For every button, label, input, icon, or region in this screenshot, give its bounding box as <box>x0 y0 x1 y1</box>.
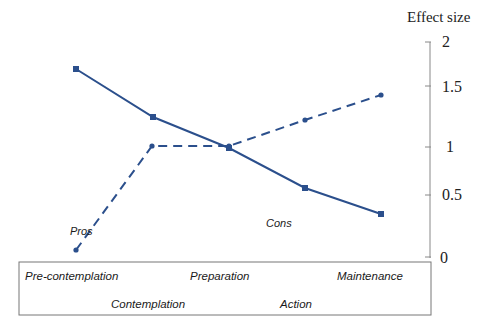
stage-pre-contemplation: Pre-contemplation <box>25 270 118 282</box>
pros-line <box>76 95 381 250</box>
cons-line <box>76 69 381 214</box>
y-axis-title: Effect size <box>407 9 471 25</box>
cons-markers <box>73 66 384 217</box>
effect-size-chart: Effect size 2 1.5 1 0.5 0 Pros Cons Pre-… <box>0 0 483 331</box>
cons-label: Cons <box>266 217 292 229</box>
y-tick-label-1: 1 <box>446 138 454 155</box>
stage-action: Action <box>279 298 312 310</box>
y-tick-label-1-5: 1.5 <box>442 78 462 95</box>
y-tick-label-0: 0 <box>440 249 448 266</box>
pros-label: Pros <box>70 225 93 237</box>
pros-markers <box>73 92 383 252</box>
stage-contemplation: Contemplation <box>111 298 185 310</box>
y-tick-label-2: 2 <box>442 33 450 50</box>
stage-preparation: Preparation <box>190 270 249 282</box>
y-tick-label-0-5: 0.5 <box>442 186 462 203</box>
stage-maintenance: Maintenance <box>337 270 403 282</box>
